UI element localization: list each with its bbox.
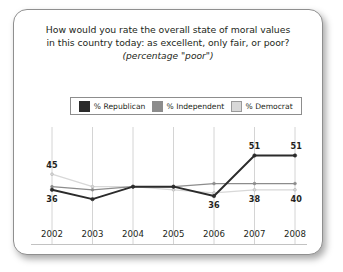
- legend-swatch-independent: [152, 101, 163, 112]
- legend-swatch-republican: [79, 101, 90, 112]
- data-label: 40: [290, 194, 301, 204]
- chart-title-line-2: in this country today: as excellent, onl…: [14, 36, 322, 49]
- x-axis-tick-2003: 2003: [82, 229, 104, 239]
- chart-subtitle: (percentage "poor"): [14, 49, 322, 63]
- legend-label-republican: % Republican: [94, 102, 146, 111]
- x-axis-tick-2002: 2002: [41, 229, 63, 239]
- data-label: 45: [46, 160, 57, 170]
- legend-item-independent: % Independent: [152, 101, 224, 112]
- chart-plot-area: 45363651513840: [31, 127, 307, 245]
- chart-legend: % Republican % Independent % Democrat: [70, 97, 302, 115]
- legend-item-democrat: % Democrat: [231, 101, 293, 112]
- chart-title-block: How would you rate the overall state of …: [14, 23, 322, 63]
- chart-plot-svg: [31, 127, 307, 245]
- legend-swatch-democrat: [231, 101, 242, 112]
- chart-title-line-1: How would you rate the overall state of …: [14, 23, 322, 36]
- chart-card: How would you rate the overall state of …: [13, 9, 323, 255]
- data-label: 51: [290, 141, 301, 151]
- x-axis-tick-2005: 2005: [163, 229, 185, 239]
- data-label: 36: [208, 200, 219, 210]
- legend-item-republican: % Republican: [79, 101, 145, 112]
- x-axis-tick-2007: 2007: [244, 229, 266, 239]
- chart-x-axis: 2002200320042005200620072008: [31, 229, 307, 245]
- legend-label-independent: % Independent: [167, 102, 225, 111]
- x-axis-tick-2006: 2006: [203, 229, 225, 239]
- x-axis-tick-2008: 2008: [284, 229, 306, 239]
- data-label: 38: [249, 194, 260, 204]
- x-axis-tick-2004: 2004: [122, 229, 144, 239]
- data-label: 36: [46, 194, 57, 204]
- legend-label-democrat: % Democrat: [246, 102, 293, 111]
- data-label: 51: [249, 141, 260, 151]
